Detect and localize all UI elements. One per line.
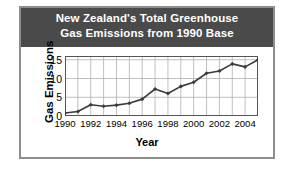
x-axis-label: Year — [21, 136, 273, 148]
chart-title-banner: New Zealand's Total Greenhouse Gas Emiss… — [21, 8, 273, 47]
chart-figure: New Zealand's Total Greenhouse Gas Emiss… — [0, 0, 293, 172]
data-point-marker — [127, 101, 131, 105]
plot-axes: 05101519901992199419961998200020022004 — [65, 56, 258, 116]
x-axis-tick-label: 2004 — [235, 118, 256, 129]
x-axis-tick-label: 1994 — [106, 118, 127, 129]
data-point-marker — [102, 104, 106, 108]
chart-card: New Zealand's Total Greenhouse Gas Emiss… — [19, 6, 275, 159]
x-axis-tick-label: 2000 — [183, 118, 204, 129]
x-axis-tick-label: 1990 — [54, 118, 75, 129]
data-point-marker — [65, 111, 67, 115]
data-series-line — [65, 60, 258, 113]
x-axis-tick-label: 2002 — [209, 118, 230, 129]
x-axis-tick-label: 1996 — [132, 118, 153, 129]
plot-region: Gas Emissions 05101519901992199419961998… — [21, 47, 273, 157]
data-point-marker — [114, 103, 118, 107]
y-axis-tick-label: 5 — [42, 92, 62, 102]
x-axis-tick-label: 1992 — [80, 118, 101, 129]
chart-title-line-1: New Zealand's Total Greenhouse — [21, 11, 273, 26]
chart-title-line-2: Gas Emissions from 1990 Base — [21, 26, 273, 41]
line-chart-svg — [65, 56, 258, 116]
y-axis-tick-label: 10 — [42, 74, 62, 84]
x-axis-tick-label: 1998 — [157, 118, 178, 129]
y-axis-tick-label: 15 — [42, 55, 62, 65]
